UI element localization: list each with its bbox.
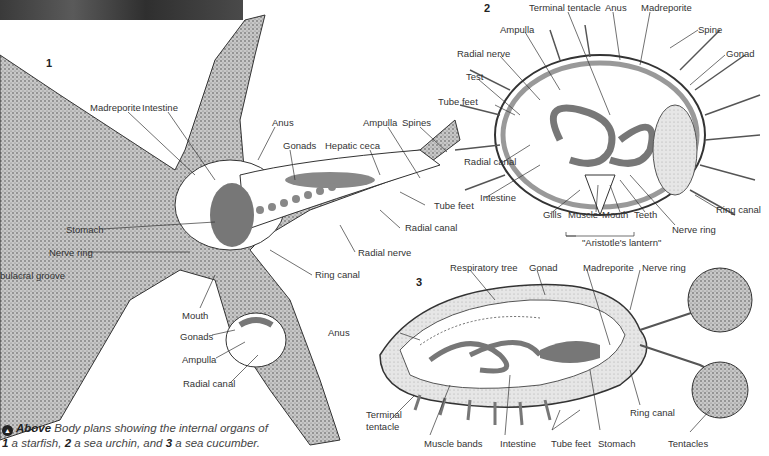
label-aristotles-lantern: "Aristotle's lantern" — [582, 237, 661, 248]
label-radial-nerve: Radial nerve — [358, 247, 411, 258]
label-madreporite: Madreporite — [90, 102, 141, 113]
label-nerve-ring: Nerve ring — [642, 262, 686, 273]
label-muscle-bands: Muscle bands — [424, 438, 483, 449]
label-ampulla-2: Ampulla — [182, 354, 216, 365]
label-radial-nerve: Radial nerve — [457, 48, 510, 59]
caption-lead: Above — [16, 422, 51, 434]
label-ampulla: Ampulla — [500, 24, 534, 35]
label-stomach: Stomach — [66, 224, 104, 235]
panel-number-3: 3 — [416, 276, 422, 288]
caption-text-3: a sea cucumber. — [172, 437, 260, 449]
label-anus: Anus — [272, 117, 294, 128]
label-ambulacral-groove: bulacral groove — [0, 270, 65, 281]
label-gonad: Gonad — [726, 48, 755, 59]
label-tentacle: tentacle — [366, 421, 399, 432]
label-ampulla: Ampulla — [363, 117, 397, 128]
caption-line1: Body plans showing the internal organs o… — [51, 422, 268, 434]
label-anus: Anus — [328, 327, 350, 338]
label-radial-canal-2: Radial canal — [183, 378, 235, 389]
panel-number-1: 1 — [46, 57, 52, 69]
label-tube-feet: Tube feet — [434, 200, 474, 211]
label-radial-canal: Radial canal — [405, 222, 457, 233]
label-intestine: Intestine — [480, 192, 516, 203]
label-intestine: Intestine — [142, 102, 178, 113]
label-tube-feet: Tube feet — [438, 96, 478, 107]
label-madreporite: Madreporite — [641, 2, 692, 13]
diagram-art — [0, 0, 769, 456]
label-terminal-tentacle: Terminal tentacle — [529, 2, 601, 13]
figure-caption: ▲Above Body plans showing the internal o… — [2, 421, 268, 451]
label-teeth: Teeth — [634, 209, 657, 220]
sea-cucumber-illustration — [380, 268, 752, 425]
label-mouth: Mouth — [602, 209, 628, 220]
label-gonads: Gonads — [283, 140, 316, 151]
panel-number-2: 2 — [484, 2, 490, 14]
label-gonads-2: Gonads — [180, 331, 213, 342]
label-tentacles: Tentacles — [668, 438, 708, 449]
label-spines: Spines — [402, 117, 431, 128]
label-radial-canal: Radial canal — [464, 156, 516, 167]
label-stomach: Stomach — [598, 438, 636, 449]
label-gills: Gills — [543, 209, 561, 220]
label-muscle: Muscle — [568, 209, 598, 220]
up-arrow-icon: ▲ — [2, 425, 13, 436]
label-mouth: Mouth — [182, 310, 208, 321]
label-madreporite: Madreporite — [583, 262, 634, 273]
label-terminal: Terminal — [366, 409, 402, 420]
label-nerve-ring: Nerve ring — [49, 247, 93, 258]
label-ring-canal: Ring canal — [630, 407, 675, 418]
label-test: Test — [466, 71, 483, 82]
label-spine: Spine — [698, 24, 722, 35]
label-nerve-ring: Nerve ring — [672, 224, 716, 235]
label-respiratory-tree: Respiratory tree — [450, 262, 518, 273]
caption-text-2: a sea urchin, and — [71, 437, 166, 449]
label-anus: Anus — [605, 2, 627, 13]
label-ring-canal: Ring canal — [716, 204, 761, 215]
label-ring-canal: Ring canal — [315, 269, 360, 280]
label-intestine: Intestine — [500, 438, 536, 449]
caption-text-1: a starfish, — [8, 437, 64, 449]
label-gonad: Gonad — [529, 262, 558, 273]
label-tube-feet: Tube feet — [551, 438, 591, 449]
label-hepatic-ceca: Hepatic ceca — [325, 140, 380, 151]
